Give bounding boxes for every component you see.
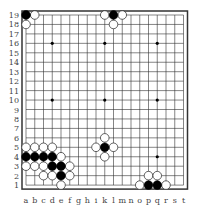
white-stone-r1 xyxy=(162,181,171,190)
row-label: 5 xyxy=(14,143,19,152)
star-point xyxy=(103,98,106,101)
column-label: e xyxy=(59,196,64,205)
black-stone-p1 xyxy=(144,181,153,190)
white-stone-e4 xyxy=(57,152,66,161)
white-stone-d2 xyxy=(48,171,57,180)
row-label: 17 xyxy=(9,30,19,39)
black-stone-l19 xyxy=(109,11,118,20)
white-stone-e1 xyxy=(57,181,66,190)
black-stone-q1 xyxy=(153,181,162,190)
black-stone-b4 xyxy=(30,152,39,161)
white-stone-m19 xyxy=(118,11,127,20)
row-label: 18 xyxy=(9,20,19,29)
column-label: g xyxy=(76,196,81,205)
black-stone-a19 xyxy=(22,11,31,20)
white-stone-a3 xyxy=(22,162,31,171)
star-point xyxy=(103,42,106,45)
row-label: 9 xyxy=(14,106,19,115)
column-label: d xyxy=(50,196,55,205)
white-stone-b19 xyxy=(30,11,39,20)
star-point xyxy=(156,98,159,101)
column-label: n xyxy=(128,196,133,205)
white-stone-l5 xyxy=(109,143,118,152)
white-stone-d5 xyxy=(48,143,57,152)
star-point xyxy=(51,42,54,45)
white-stone-k6 xyxy=(100,134,109,143)
row-label: 16 xyxy=(9,39,19,48)
black-stone-d4 xyxy=(48,152,57,161)
column-label: i xyxy=(95,196,98,205)
column-label: h xyxy=(85,196,90,205)
column-label: p xyxy=(146,196,151,205)
column-label: k xyxy=(102,196,107,205)
white-stone-l18 xyxy=(109,20,118,29)
row-label: 10 xyxy=(9,96,19,105)
black-stone-e2 xyxy=(57,171,66,180)
white-stone-o1 xyxy=(135,181,144,190)
row-label: 11 xyxy=(9,87,19,96)
white-stone-k19 xyxy=(100,11,109,20)
column-label: f xyxy=(68,196,72,205)
column-label: l xyxy=(112,196,115,205)
white-stone-c2 xyxy=(39,171,48,180)
go-board: 19181716151413121110987654321abcdefghikl… xyxy=(0,0,208,214)
column-label: t xyxy=(182,196,186,205)
white-stone-b5 xyxy=(30,143,39,152)
column-label: s xyxy=(173,196,177,205)
column-label: a xyxy=(24,196,29,205)
black-stone-k5 xyxy=(100,143,109,152)
white-stone-f3 xyxy=(65,162,74,171)
row-label: 19 xyxy=(9,11,19,20)
black-stone-e3 xyxy=(57,162,66,171)
white-stone-i5 xyxy=(92,143,101,152)
white-stone-c5 xyxy=(39,143,48,152)
column-label: q xyxy=(155,196,160,205)
column-label: o xyxy=(137,196,142,205)
row-label: 14 xyxy=(9,58,19,67)
row-label: 1 xyxy=(14,181,19,190)
black-stone-d3 xyxy=(48,162,57,171)
column-label: c xyxy=(41,196,46,205)
row-label: 7 xyxy=(14,124,19,133)
white-stone-a5 xyxy=(22,143,31,152)
row-label: 2 xyxy=(14,172,19,181)
row-label: 3 xyxy=(14,162,19,171)
star-point xyxy=(51,98,54,101)
star-point xyxy=(156,42,159,45)
row-label: 12 xyxy=(9,77,19,86)
white-stone-f2 xyxy=(65,171,74,180)
column-label: b xyxy=(32,196,37,205)
star-point xyxy=(156,155,159,158)
black-stone-a4 xyxy=(22,152,31,161)
row-label: 13 xyxy=(9,68,19,77)
white-stone-b3 xyxy=(30,162,39,171)
row-label: 15 xyxy=(9,49,19,58)
row-label: 6 xyxy=(14,134,19,143)
column-label: r xyxy=(164,196,168,205)
row-label: 4 xyxy=(14,153,19,162)
white-stone-k4 xyxy=(100,152,109,161)
column-label: m xyxy=(118,196,126,205)
black-stone-c4 xyxy=(39,152,48,161)
white-stone-c3 xyxy=(39,162,48,171)
white-stone-q2 xyxy=(153,171,162,180)
white-stone-p2 xyxy=(144,171,153,180)
white-stone-a18 xyxy=(22,20,31,29)
row-label: 8 xyxy=(14,115,19,124)
